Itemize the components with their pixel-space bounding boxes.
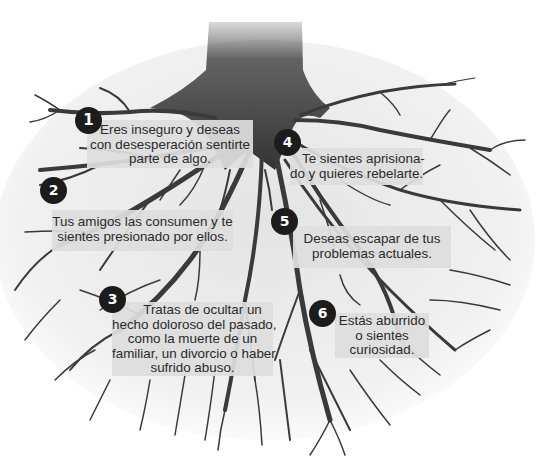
callout-2-line-1: Tus amigos las consumen y te — [52, 215, 233, 230]
callout-3-line-5: sufrido abuso. — [112, 361, 273, 376]
callout-3-text-box: Tratas de ocultar un hecho doloroso del … — [112, 302, 273, 376]
callout-3-line-2: hecho doloroso del pasado, — [112, 318, 273, 333]
callout-4-line-1: Te sientes aprisiona- — [290, 152, 423, 167]
callout-3-number-badge: 3 — [99, 286, 126, 313]
callout-6-line-1: Estás aburrido — [335, 314, 429, 329]
callout-5-line-1: Deseas escapar de tus — [293, 232, 451, 247]
callout-1-line-1: Eres inseguro y deseas — [87, 123, 253, 138]
callout-4-text-box: Te sientes aprisiona- do y quieres rebel… — [290, 148, 423, 185]
callout-5-line-2: problemas actuales. — [293, 247, 451, 262]
callout-2-line-2: sientes presionado por ellos. — [52, 230, 233, 245]
callout-1-line-2: con desesperación sentirte — [87, 138, 253, 153]
callout-5-text-box: Deseas escapar de tus problemas actuales… — [293, 226, 451, 268]
callout-5-number-badge: 5 — [271, 208, 298, 235]
callout-1-line-3: parte de algo. — [87, 152, 253, 167]
callout-3-line-4: familiar, un divorcio o haber — [112, 347, 273, 362]
callout-6-line-2: o sientes — [335, 329, 429, 344]
callout-2-number-badge: 2 — [40, 177, 67, 204]
callout-1-text-box: Eres inseguro y deseas con desesperación… — [87, 120, 253, 168]
callout-6-line-3: curiosidad. — [335, 343, 429, 358]
callout-2-text-box: Tus amigos las consumen y te sientes pre… — [52, 210, 233, 251]
callout-1-number-badge: 1 — [75, 107, 102, 134]
callout-4-number-badge: 4 — [274, 129, 301, 156]
tree-roots-diagram: Eres inseguro y deseas con desesperación… — [0, 0, 538, 471]
callout-3-line-3: como la muerte de un — [112, 332, 273, 347]
callout-3-line-1: Tratas de ocultar un — [112, 303, 273, 318]
callout-6-number-badge: 6 — [309, 300, 336, 327]
callout-6-text-box: Estás aburrido o sientes curiosidad. — [335, 313, 429, 358]
callout-4-line-2: do y quieres rebelarte. — [290, 167, 423, 182]
